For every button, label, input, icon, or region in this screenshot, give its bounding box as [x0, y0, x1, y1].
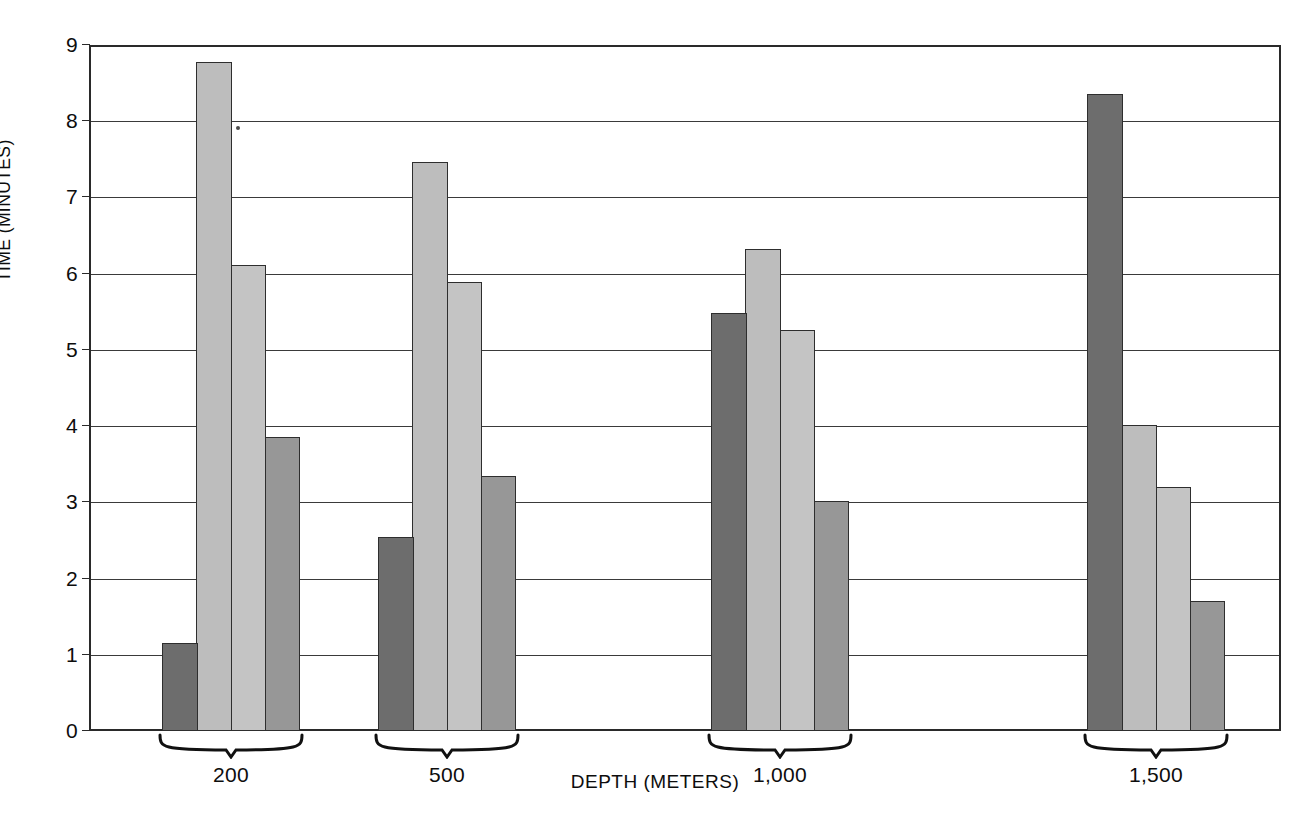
y-axis-tick-label: 2 [52, 568, 78, 589]
y-axis-tick-mark [82, 578, 90, 579]
y-axis-tick-label: 8 [52, 110, 78, 131]
group-brace [1083, 733, 1229, 759]
bar[interactable] [779, 330, 815, 731]
y-axis-tick-mark [82, 654, 90, 655]
bar[interactable] [813, 501, 849, 731]
bar[interactable] [480, 476, 516, 731]
y-axis-tick-label: 9 [52, 34, 78, 55]
y-axis-tick-mark [82, 120, 90, 121]
bar[interactable] [162, 643, 198, 731]
x-axis-group-label-1000: 1,000 [753, 763, 807, 787]
x-axis-group-label-1500: 1,500 [1129, 763, 1183, 787]
y-axis-tick-label: 5 [52, 339, 78, 360]
bar[interactable] [1189, 601, 1225, 731]
bar[interactable] [412, 162, 448, 731]
bar[interactable] [711, 313, 747, 731]
y-axis-tick-mark [82, 44, 90, 45]
bar[interactable] [1121, 425, 1157, 731]
bar[interactable] [196, 62, 232, 731]
bar-chart-figure: 0123456789 TIME (MINUTES) 2005001,0001,5… [0, 0, 1310, 815]
group-brace [707, 733, 853, 759]
x-axis-title: DEPTH (METERS) [571, 771, 740, 793]
bar[interactable] [1155, 487, 1191, 731]
bar[interactable] [1087, 94, 1123, 731]
y-axis-tick-mark [82, 273, 90, 274]
group-brace [374, 733, 520, 759]
print-speck [236, 126, 240, 130]
y-axis-tick-label: 6 [52, 263, 78, 284]
y-axis-tick-label: 4 [52, 415, 78, 436]
y-axis-tick-mark [82, 349, 90, 350]
x-axis-group-label-500: 500 [429, 763, 465, 787]
bar[interactable] [264, 437, 300, 731]
y-axis-title: TIME (MINUTES) [0, 22, 15, 282]
y-axis-tick-mark [82, 501, 90, 502]
bar[interactable] [230, 265, 266, 731]
y-axis-tick-label: 1 [52, 644, 78, 665]
bar[interactable] [378, 537, 414, 731]
y-axis-tick-mark [82, 730, 90, 731]
x-axis-group-label-200: 200 [213, 763, 249, 787]
bar[interactable] [745, 249, 781, 731]
y-axis-tick-label: 3 [52, 491, 78, 512]
y-axis-tick-label: 7 [52, 186, 78, 207]
y-axis-tick-label: 0 [52, 720, 78, 741]
y-axis-tick-mark [82, 196, 90, 197]
bar[interactable] [446, 282, 482, 731]
group-brace [158, 733, 304, 759]
y-axis-tick-mark [82, 425, 90, 426]
